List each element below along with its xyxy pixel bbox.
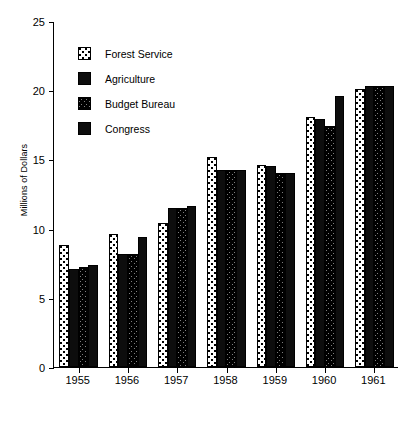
bar-congress-1960 bbox=[335, 96, 345, 367]
bar-forest-service-1961 bbox=[355, 89, 365, 367]
bar-agriculture-1957 bbox=[168, 208, 178, 367]
bar-congress-1957 bbox=[187, 206, 197, 367]
bar-congress-1955 bbox=[88, 265, 98, 367]
bar-budget-bureau-1956 bbox=[128, 254, 138, 367]
y-axis-tick-label: 5 bbox=[39, 293, 45, 305]
legend-item-forest-service: Forest Service bbox=[78, 41, 175, 66]
bar-agriculture-1960 bbox=[315, 119, 325, 367]
x-axis-tick bbox=[325, 367, 326, 373]
bar-agriculture-1961 bbox=[365, 86, 375, 367]
y-axis-tick: 15 bbox=[49, 160, 54, 161]
bar-forest-service-1959 bbox=[257, 165, 267, 367]
y-axis-tick-label: 10 bbox=[33, 224, 45, 236]
bar-agriculture-1955 bbox=[69, 269, 79, 367]
bar-budget-bureau-1960 bbox=[325, 126, 335, 367]
bar-forest-service-1955 bbox=[59, 245, 69, 367]
bar-group-1960 bbox=[306, 22, 344, 367]
bar-forest-service-1960 bbox=[306, 117, 316, 368]
legend-item-agriculture: Agriculture bbox=[78, 66, 175, 91]
chart-legend: Forest ServiceAgricultureBudget BureauCo… bbox=[78, 41, 175, 141]
y-axis-tick-label: 0 bbox=[39, 362, 45, 374]
legend-swatch-icon bbox=[78, 122, 91, 135]
bar-group-1961 bbox=[355, 22, 393, 367]
x-axis-tick bbox=[276, 367, 277, 373]
legend-item-label: Agriculture bbox=[105, 73, 155, 85]
legend-item-congress: Congress bbox=[78, 116, 175, 141]
legend-item-label: Budget Bureau bbox=[105, 98, 175, 110]
bar-agriculture-1958 bbox=[217, 170, 227, 367]
bar-budget-bureau-1959 bbox=[276, 173, 286, 367]
x-axis-label-1961: 1961 bbox=[343, 374, 403, 386]
bar-congress-1956 bbox=[138, 237, 148, 367]
y-axis-tick-label: 15 bbox=[33, 154, 45, 166]
legend-item-label: Forest Service bbox=[105, 48, 173, 60]
legend-item-label: Congress bbox=[105, 123, 150, 135]
y-axis-tick: 5 bbox=[49, 299, 54, 300]
bar-chart: Millions of Dollars 0510152025 195519561… bbox=[0, 0, 419, 421]
bar-group-1958 bbox=[207, 22, 245, 367]
x-axis-tick bbox=[374, 367, 375, 373]
bar-group-1959 bbox=[257, 22, 295, 367]
bar-agriculture-1959 bbox=[266, 166, 276, 367]
x-axis-tick bbox=[128, 367, 129, 373]
bar-budget-bureau-1961 bbox=[374, 86, 384, 367]
bar-agriculture-1956 bbox=[118, 254, 128, 367]
bar-budget-bureau-1958 bbox=[226, 170, 236, 367]
bar-forest-service-1957 bbox=[158, 223, 168, 367]
y-axis-title: Millions of Dollars bbox=[19, 120, 29, 240]
legend-swatch-icon bbox=[78, 47, 91, 60]
x-axis-tick bbox=[227, 367, 228, 373]
bar-congress-1958 bbox=[236, 170, 246, 367]
bar-congress-1959 bbox=[285, 173, 295, 367]
x-axis-tick bbox=[177, 367, 178, 373]
bar-forest-service-1956 bbox=[109, 234, 119, 367]
legend-item-budget-bureau: Budget Bureau bbox=[78, 91, 175, 116]
y-axis-tick: 20 bbox=[49, 91, 54, 92]
legend-swatch-icon bbox=[78, 72, 91, 85]
y-axis-tick: 10 bbox=[49, 230, 54, 231]
y-axis-tick-label: 20 bbox=[33, 85, 45, 97]
y-axis-tick: 25 bbox=[49, 22, 54, 23]
y-axis-tick: 0 bbox=[49, 368, 54, 369]
bar-forest-service-1958 bbox=[207, 157, 217, 367]
legend-swatch-icon bbox=[78, 97, 91, 110]
bar-budget-bureau-1957 bbox=[177, 208, 187, 367]
y-axis-tick-label: 25 bbox=[33, 16, 45, 28]
bar-budget-bureau-1955 bbox=[79, 267, 89, 367]
x-axis-tick bbox=[79, 367, 80, 373]
bar-congress-1961 bbox=[384, 86, 394, 367]
